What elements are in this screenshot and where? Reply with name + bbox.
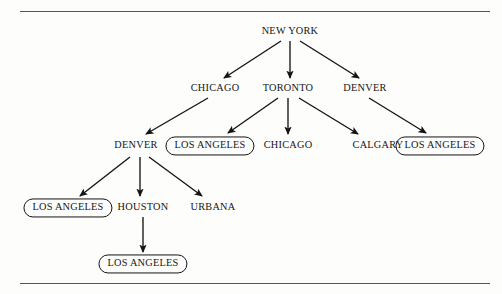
tree-edge-n4-to-n11 bbox=[149, 157, 202, 196]
tree-node-n4[interactable]: DENVER bbox=[113, 137, 158, 154]
tree-edge-n2-to-n7 bbox=[299, 98, 358, 134]
tree-node-n11[interactable]: URBANA bbox=[190, 199, 237, 216]
tree-node-n3[interactable]: DENVER bbox=[342, 80, 387, 97]
tree-edge-n3-to-n8 bbox=[369, 98, 426, 133]
tree-node-n6[interactable]: CHICAGO bbox=[263, 137, 314, 154]
tree-node-n10[interactable]: HOUSTON bbox=[117, 199, 170, 216]
tree-node-n0[interactable]: NEW YORK bbox=[261, 23, 320, 40]
tree-edge-n2-to-n5 bbox=[228, 98, 278, 133]
tree-edge-n1-to-n4 bbox=[146, 98, 208, 134]
tree-edge-n4-to-n9 bbox=[80, 157, 130, 196]
tree-node-n8[interactable]: LOS ANGELES bbox=[395, 136, 484, 155]
tree-node-n9[interactable]: LOS ANGELES bbox=[23, 198, 112, 217]
tree-edge-n0-to-n1 bbox=[224, 41, 281, 78]
tree-node-n5[interactable]: LOS ANGELES bbox=[165, 136, 254, 155]
tree-edge-n0-to-n3 bbox=[300, 41, 359, 78]
figure-canvas: NEW YORKCHICAGOTORONTODENVERDENVERLOS AN… bbox=[0, 0, 502, 294]
tree-node-n2[interactable]: TORONTO bbox=[262, 80, 315, 97]
tree-node-n12[interactable]: LOS ANGELES bbox=[98, 254, 187, 273]
tree-node-n1[interactable]: CHICAGO bbox=[190, 80, 241, 97]
